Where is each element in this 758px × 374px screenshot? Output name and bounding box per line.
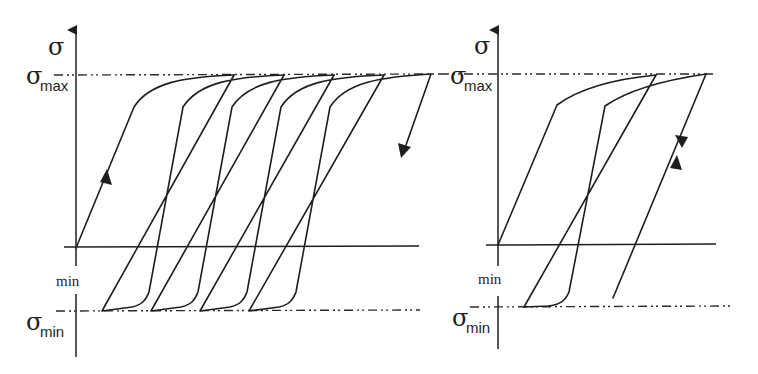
svg-text:min: min [466,319,490,336]
left-cycle-2 [151,75,334,311]
right-cycle-1 [524,74,706,307]
left-panel: σ σ max σ min min [26,30,440,357]
right-sigma-max-label: σ max [450,62,493,94]
svg-text:min: min [40,323,64,340]
left-cycle-1 [102,75,284,311]
left-strain-axis [64,246,419,247]
right-sigma-axis-label: σ [474,32,490,60]
right-sigma-min-line [470,306,732,307]
left-cycle-3 [200,75,384,311]
left-loading-arrow-icon [100,169,112,185]
right-elastic-line [613,74,706,298]
left-cycle-4 [249,74,431,311]
svg-text:max: max [40,77,69,94]
left-sigma-min-label: σ min [26,308,64,340]
right-panel: σ σ max σ min min [440,30,732,349]
left-final-unloading [406,74,431,145]
right-initial-loading-curve [498,75,656,245]
left-sigma-axis-label: σ [48,33,64,61]
left-axis-gap-label: min [56,273,80,289]
right-axis-gap-label: min [478,271,502,287]
hysteresis-figure: σ σ max σ min min σ [0,0,758,374]
left-unloading-arrow-icon [398,143,411,158]
svg-text:max: max [464,77,493,94]
left-sigma-max-label: σ max [26,62,69,94]
right-strain-axis [486,244,716,245]
right-sigma-min-label: σ min [452,304,490,336]
